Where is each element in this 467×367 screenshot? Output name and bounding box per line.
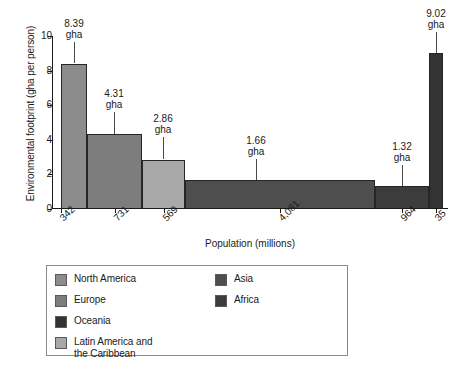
leader-line-asia — [256, 159, 257, 180]
legend-item-latin-america-and-the-caribbean[interactable]: Latin America and the Caribbean — [55, 336, 215, 360]
value-label-latin-america-and-the-caribbean: 2.86 gha — [139, 113, 187, 135]
legend-label: North America — [74, 273, 136, 285]
leader-line-oceania — [436, 32, 437, 53]
legend-label: Europe — [74, 294, 106, 306]
y-tick-label: 6 — [26, 100, 52, 110]
legend-swatch-icon — [215, 274, 227, 286]
value-label-number: 9.02 — [426, 8, 445, 19]
value-label-north-america: 8.39 gha — [50, 18, 98, 40]
legend-swatch-icon — [55, 337, 67, 349]
legend-item-africa[interactable]: Africa — [215, 294, 345, 308]
value-label-number: 2.86 — [153, 113, 172, 124]
chart-figure: Environmental footprint (gha per person)… — [0, 0, 467, 367]
y-tick-label: 2 — [26, 169, 52, 179]
legend-swatch-icon — [55, 295, 67, 307]
legend-column-left: North America Europe Oceania Latin Ameri… — [55, 273, 215, 367]
value-label-unit: gha — [155, 124, 172, 135]
x-axis-line — [52, 208, 448, 209]
leader-line-north-america — [74, 42, 75, 63]
legend-label: Africa — [234, 294, 259, 306]
bar-oceania[interactable] — [429, 53, 443, 209]
value-label-number: 4.31 — [104, 88, 123, 99]
value-label-asia: 1.66 gha — [232, 135, 280, 157]
y-axis-title: Environmental footprint (gha per person) — [25, 14, 36, 214]
legend-label: Oceania — [74, 315, 111, 327]
value-label-number: 1.66 — [246, 135, 265, 146]
y-tick-label: 0 — [26, 204, 52, 214]
bar-latin-america-and-the-caribbean[interactable] — [142, 160, 185, 210]
leader-line-africa — [402, 165, 403, 186]
value-label-unit: gha — [394, 152, 411, 163]
y-tick-label: 4 — [26, 135, 52, 145]
legend-item-north-america[interactable]: North America — [55, 273, 215, 287]
legend-item-asia[interactable]: Asia — [215, 273, 345, 287]
bar-europe[interactable] — [87, 134, 142, 209]
value-label-europe: 4.31 gha — [90, 88, 138, 110]
y-axis-line — [52, 36, 53, 209]
leader-line-europe — [114, 112, 115, 134]
legend-item-oceania[interactable]: Oceania — [55, 315, 215, 329]
legend-swatch-icon — [55, 316, 67, 328]
y-tick-label: 10 — [26, 31, 52, 41]
value-label-number: 1.32 — [392, 141, 411, 152]
bar-africa[interactable] — [375, 186, 429, 209]
value-label-oceania: 9.02 gha — [412, 8, 460, 30]
x-axis-title: Population (millions) — [52, 238, 448, 249]
value-label-africa: 1.32 gha — [378, 141, 426, 163]
legend-column-right: Asia Africa — [215, 273, 345, 315]
x-tick-label: 35 — [433, 208, 448, 223]
leader-line-latin-america-and-the-caribbean — [163, 137, 164, 159]
value-label-unit: gha — [248, 146, 265, 157]
legend-swatch-icon — [215, 295, 227, 307]
legend-label-multiline: Latin America and the Caribbean — [74, 336, 152, 360]
legend-item-europe[interactable]: Europe — [55, 294, 215, 308]
legend-label-line1: Latin America and — [74, 336, 152, 347]
legend-swatch-icon — [55, 274, 67, 286]
value-label-unit: gha — [428, 19, 445, 30]
y-tick-label: 8 — [26, 66, 52, 76]
value-label-unit: gha — [66, 29, 83, 40]
value-label-number: 8.39 — [64, 18, 83, 29]
chart-legend: North America Europe Oceania Latin Ameri… — [46, 265, 348, 356]
bar-asia[interactable] — [185, 180, 375, 209]
value-label-unit: gha — [106, 99, 123, 110]
bar-north-america[interactable] — [61, 64, 87, 209]
legend-label: Asia — [234, 273, 253, 285]
legend-label-line2: the Caribbean — [74, 348, 136, 359]
